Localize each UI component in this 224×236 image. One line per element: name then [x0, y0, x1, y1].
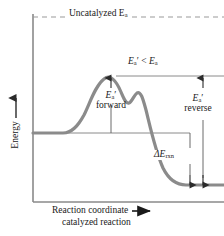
less-than-sign: < — [139, 56, 149, 66]
prime-mark-2: ′ — [114, 90, 116, 100]
ea-reverse-word: reverse — [184, 103, 211, 113]
uncatalyzed-ea-label: Uncatalyzed Ea — [66, 9, 131, 19]
uncatalyzed-word: Uncatalyzed E — [69, 8, 125, 18]
x-axis-title-line1: Reaction coordinate — [52, 206, 128, 216]
delta-e-rxn-label: ΔErxn — [153, 150, 175, 160]
plot-canvas — [0, 0, 224, 236]
uncatalyzed-subscript: a — [125, 11, 128, 18]
x-axis-title-line2: catalyzed reaction — [62, 218, 131, 228]
ea-forward-label: Ea′ forward — [88, 91, 134, 111]
delta-e-symbol: ΔE — [154, 149, 165, 159]
ea-comparison-label: Ea′ < Ea — [126, 57, 160, 67]
ea-subscript: a — [155, 59, 158, 66]
ea-forward-word: forward — [96, 100, 126, 110]
prime-mark-3: ′ — [201, 93, 203, 103]
ea-reverse-label: Ea′ reverse — [176, 94, 220, 114]
delta-e-subscript: rxn — [165, 152, 174, 159]
y-axis-title: Energy — [11, 107, 21, 163]
reaction-energy-diagram: Uncatalyzed Ea Ea′ < Ea Ea′ forward Ea′ … — [0, 0, 224, 236]
